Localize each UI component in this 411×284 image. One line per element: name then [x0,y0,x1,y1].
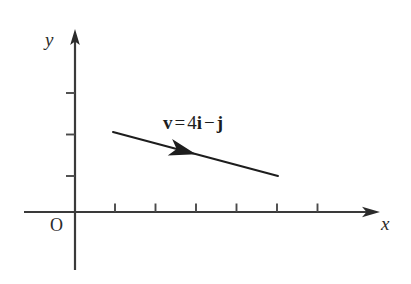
origin-label: O [50,216,63,234]
x-axis-label: x [381,214,389,233]
diagram-canvas [0,0,411,284]
vector-equation-label: v=4i−j [163,112,223,134]
vector-arrowhead [168,139,198,162]
minus-sign: − [202,112,217,133]
y-axis-label: y [45,30,53,49]
y-axis-ticks [66,93,75,176]
equals-sign: = [173,112,188,133]
vector-name-v: v [163,112,173,133]
vector-diagram-figure: y x O v=4i−j [0,0,411,284]
x-axis-ticks [115,204,318,213]
unit-vector-j: j [217,112,223,133]
coefficient-4: 4 [187,112,197,133]
